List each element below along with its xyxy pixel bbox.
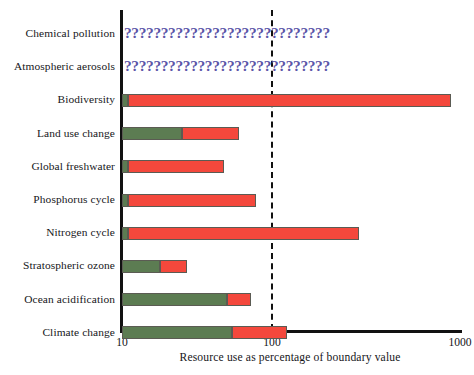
bar-segment-red-row-7 xyxy=(160,260,186,273)
planetary-boundaries-chart: 101001000Resource use as percentage of b… xyxy=(0,0,474,375)
x-axis-title: Resource use as percentage of boundary v… xyxy=(150,351,430,364)
unknown-marker-row-0: ???????????????????????????? xyxy=(124,25,356,40)
category-label-stratospheric-ozone: Stratospheric ozone xyxy=(0,259,115,272)
category-label-global-freshwater: Global freshwater xyxy=(0,160,115,173)
category-label-climate-change: Climate change xyxy=(0,326,115,339)
category-label-atmospheric-aerosols: Atmospheric aerosols xyxy=(0,60,115,73)
bar-segment-red-row-5 xyxy=(128,194,256,207)
bar-segment-red-row-8 xyxy=(227,293,252,306)
category-label-chemical-pollution: Chemical pollution xyxy=(0,27,115,40)
bar-segment-green-row-8 xyxy=(122,293,227,306)
bar-segment-red-row-2 xyxy=(128,94,451,107)
unknown-marker-row-1: ???????????????????????????? xyxy=(124,58,356,73)
bar-segment-red-row-4 xyxy=(128,160,224,173)
bar-segment-red-row-9 xyxy=(232,326,287,339)
bar-segment-red-row-6 xyxy=(128,227,359,240)
category-label-land-use-change: Land use change xyxy=(0,127,115,140)
bar-segment-red-row-3 xyxy=(182,127,239,140)
bar-segment-green-row-7 xyxy=(122,260,160,273)
bar-segment-green-row-3 xyxy=(122,127,182,140)
category-label-nitrogen-cycle: Nitrogen cycle xyxy=(0,226,115,239)
category-label-phosphorus-cycle: Phosphorus cycle xyxy=(0,193,115,206)
category-label-biodiversity: Biodiversity xyxy=(0,93,115,106)
x-tick-label-1000: 1000 xyxy=(430,336,474,349)
category-label-ocean-acidification: Ocean acidification xyxy=(0,293,115,306)
bar-segment-green-row-9 xyxy=(122,326,232,339)
